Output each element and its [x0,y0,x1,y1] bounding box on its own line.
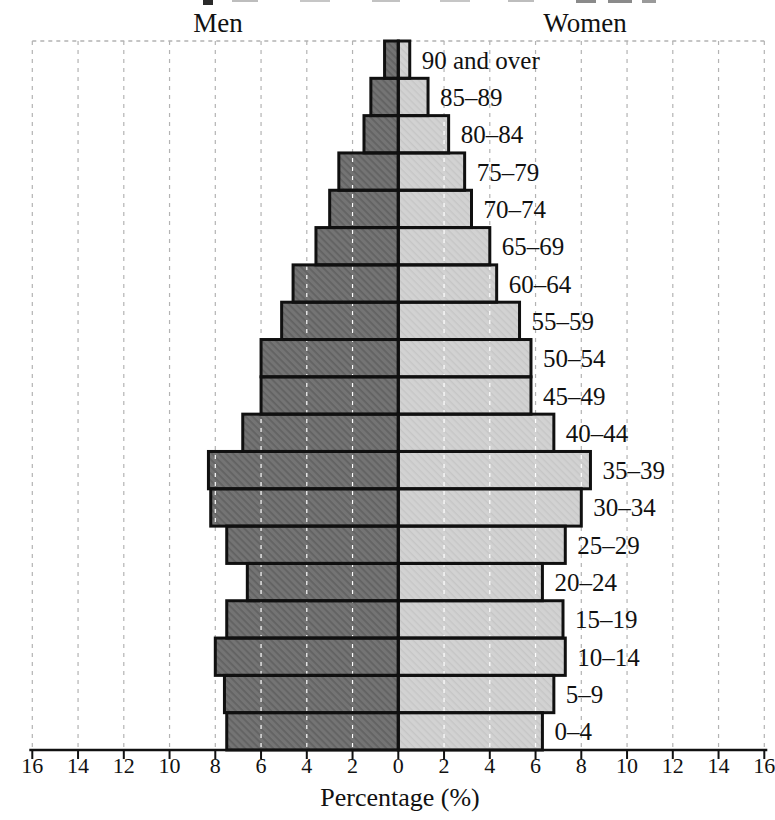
age-group-label: 85–89 [440,84,503,111]
x-tick-label: 6 [530,753,541,778]
x-tick-label: 4 [301,753,312,778]
age-group-label: 90 and over [422,47,541,74]
women-bar [398,414,554,451]
women-bar [398,638,565,675]
x-tick-label: 0 [393,753,404,778]
men-bar [316,228,398,265]
x-tick-label: 2 [439,753,450,778]
men-bar [208,451,398,488]
age-group-label: 55–59 [532,308,595,335]
women-bar [398,713,542,750]
men-bar [227,601,399,638]
women-bar [398,78,428,115]
men-bar [385,41,399,78]
men-bar [261,377,398,414]
women-bar [398,526,565,563]
women-bar [398,601,563,638]
x-tick-label: 14 [67,753,89,778]
men-bar [227,526,399,563]
age-group-label: 5–9 [566,681,604,708]
x-tick-label: 8 [576,753,587,778]
age-group-label: 35–39 [602,457,665,484]
age-group-label: 40–44 [566,420,629,447]
age-group-label: 75–79 [477,159,540,186]
age-group-label: 0–4 [554,718,592,745]
men-bar [371,78,398,115]
men-bar [211,489,399,526]
population-pyramid-chart: Men Women 90 and over85–8980–8475–7970–7… [0,0,775,820]
x-axis-title: Percentage (%) [320,783,480,812]
age-group-label: 45–49 [543,383,606,410]
men-bar [330,190,399,227]
women-side-label: Women [543,8,627,38]
x-tick-label: 12 [113,753,135,778]
x-tick-label: 8 [210,753,221,778]
women-bar [398,563,542,600]
x-tick-label: 4 [484,753,495,778]
age-group-label: 50–54 [543,345,606,372]
men-bar [339,153,398,190]
age-group-label: 15–19 [575,606,638,633]
x-tick-label: 10 [159,753,181,778]
men-side-label: Men [193,8,243,38]
men-bar [227,713,399,750]
x-tick-label: 14 [708,753,730,778]
x-tick-label: 2 [347,753,358,778]
women-bar [398,116,448,153]
men-bar [261,340,398,377]
men-bar [247,563,398,600]
x-tick-labels: 1614121086420246810121416 [21,753,775,778]
men-bar [282,302,399,339]
men-bar [243,414,399,451]
women-bar [398,377,531,414]
x-tick-label: 12 [662,753,684,778]
age-group-label: 80–84 [461,121,524,148]
population-pyramid-figure: Men Women 90 and over85–8980–8475–7970–7… [0,0,775,820]
men-bar [224,675,398,712]
x-tick-label: 16 [21,753,43,778]
age-group-label: 20–24 [554,569,617,596]
men-bar [364,116,398,153]
women-bar [398,675,554,712]
x-tick-label: 16 [753,753,775,778]
cropped-title-fragment [203,0,656,5]
women-bar [398,153,464,190]
women-bar [398,302,519,339]
x-tick-label: 10 [616,753,638,778]
women-bar [398,41,409,78]
women-bar [398,451,590,488]
age-group-label: 30–34 [593,494,656,521]
men-bar [293,265,398,302]
age-group-label: 10–14 [577,644,640,671]
x-tick-label: 6 [256,753,267,778]
age-group-label: 60–64 [509,271,572,298]
age-group-label: 70–74 [484,196,547,223]
age-group-label: 65–69 [502,233,565,260]
women-bar [398,340,531,377]
age-group-label: 25–29 [577,532,640,559]
women-bar [398,190,471,227]
women-bar [398,265,496,302]
